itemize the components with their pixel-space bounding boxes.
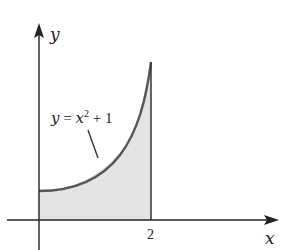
annotation-leader-line: [88, 130, 98, 158]
x-axis-label: x: [265, 228, 275, 248]
chart-canvas: y x 2 y = x2 + 1: [0, 0, 284, 250]
y-axis-label: y: [49, 24, 60, 44]
x-tick-label-2: 2: [147, 227, 154, 242]
shaded-area: [39, 62, 151, 220]
eq-rest: + 1: [89, 110, 112, 126]
curve-annotation: y = x2 + 1: [50, 108, 112, 127]
eq-equals: =: [59, 110, 75, 126]
